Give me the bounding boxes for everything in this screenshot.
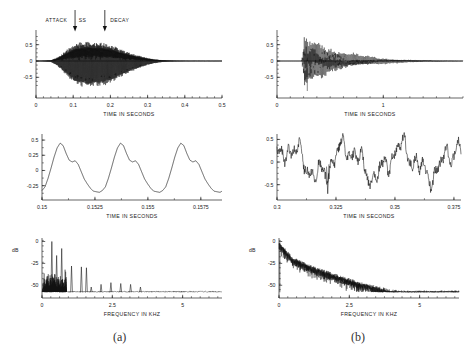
svg-text:0: 0 xyxy=(276,102,279,108)
plot-a-mid: 0.150.15250.1550.15750.50.250-0.25TIME I… xyxy=(0,124,237,230)
figure-caption-b: (b) xyxy=(351,330,365,345)
svg-text:0: 0 xyxy=(35,102,38,108)
svg-text:0: 0 xyxy=(36,167,39,173)
svg-text:2.5: 2.5 xyxy=(109,302,116,308)
svg-text:-50: -50 xyxy=(268,282,276,288)
svg-text:0.375: 0.375 xyxy=(447,204,460,210)
svg-text:0: 0 xyxy=(271,58,274,64)
svg-text:-25: -25 xyxy=(268,260,276,266)
svg-text:0.5: 0.5 xyxy=(25,42,32,48)
panel-a-top-waveform: 00.10.20.30.40.50.50-0.5TIME IN SECONDSA… xyxy=(0,4,237,122)
svg-text:TIME IN SECONDS: TIME IN SECONDS xyxy=(106,213,158,219)
svg-text:5: 5 xyxy=(418,302,421,308)
svg-text:0.1525: 0.1525 xyxy=(87,204,103,210)
svg-text:-50: -50 xyxy=(31,282,39,288)
svg-text:0.2: 0.2 xyxy=(107,102,114,108)
svg-text:5: 5 xyxy=(181,302,184,308)
svg-text:0.5: 0.5 xyxy=(31,137,38,143)
svg-text:DECAY: DECAY xyxy=(110,17,129,23)
svg-text:0.1575: 0.1575 xyxy=(193,204,209,210)
svg-text:-0.5: -0.5 xyxy=(265,74,274,80)
panel-a-bottom-spectrum: 02.550-25-50FREQUENCY IN KHZdB xyxy=(0,230,237,330)
svg-text:0.25: 0.25 xyxy=(28,152,38,158)
svg-text:dB: dB xyxy=(12,247,19,253)
svg-text:0: 0 xyxy=(30,58,33,64)
svg-text:TIME IN SECONDS: TIME IN SECONDS xyxy=(103,111,155,117)
svg-text:FREQUENCY IN KHZ: FREQUENCY IN KHZ xyxy=(104,311,161,317)
svg-text:ATTACK: ATTACK xyxy=(46,17,68,23)
svg-text:0.15: 0.15 xyxy=(37,204,47,210)
svg-text:0: 0 xyxy=(273,238,276,244)
svg-text:2.5: 2.5 xyxy=(346,302,353,308)
svg-text:SS: SS xyxy=(79,17,87,23)
svg-text:dB: dB xyxy=(249,247,256,253)
svg-text:0.5: 0.5 xyxy=(218,102,225,108)
svg-text:0.5: 0.5 xyxy=(266,136,273,142)
svg-text:0.1: 0.1 xyxy=(70,102,77,108)
plot-b-mid: 0.30.3250.350.3750.50-0.5TIME IN SECONDS xyxy=(237,124,474,230)
panel-b-top-waveform: 010.50-0.5TIME IN SECONDS xyxy=(237,4,474,122)
svg-text:0.3: 0.3 xyxy=(144,102,151,108)
plot-b-top: 010.50-0.5TIME IN SECONDS xyxy=(237,4,474,122)
panel-b-bottom-spectrum: 02.550-25-50FREQUENCY IN KHZdB xyxy=(237,230,474,330)
svg-text:-25: -25 xyxy=(31,260,39,266)
svg-text:0: 0 xyxy=(278,302,281,308)
svg-text:0.155: 0.155 xyxy=(141,204,154,210)
svg-text:-0.5: -0.5 xyxy=(24,74,33,80)
panel-b-mid-waveform: 0.30.3250.350.3750.50-0.5TIME IN SECONDS xyxy=(237,124,474,230)
svg-text:0.325: 0.325 xyxy=(329,204,342,210)
svg-text:0.4: 0.4 xyxy=(181,102,188,108)
plot-b-bot: 02.550-25-50FREQUENCY IN KHZdB xyxy=(237,230,474,330)
svg-text:0: 0 xyxy=(36,238,39,244)
plot-a-top: 00.10.20.30.40.50.50-0.5TIME IN SECONDSA… xyxy=(0,4,237,122)
svg-text:0: 0 xyxy=(41,302,44,308)
panel-a-mid-waveform: 0.150.15250.1550.15750.50.250-0.25TIME I… xyxy=(0,124,237,230)
svg-text:TIME IN SECONDS: TIME IN SECONDS xyxy=(343,213,395,219)
svg-text:1: 1 xyxy=(382,102,385,108)
svg-text:0.35: 0.35 xyxy=(390,204,400,210)
figure-caption-a: (a) xyxy=(113,330,126,345)
plot-a-bot: 02.550-25-50FREQUENCY IN KHZdB xyxy=(0,230,237,330)
svg-text:0.5: 0.5 xyxy=(266,42,273,48)
svg-text:0: 0 xyxy=(271,159,274,165)
svg-text:-0.25: -0.25 xyxy=(27,183,39,189)
svg-text:FREQUENCY IN KHZ: FREQUENCY IN KHZ xyxy=(341,311,398,317)
svg-text:0.3: 0.3 xyxy=(273,204,280,210)
svg-text:-0.5: -0.5 xyxy=(265,182,274,188)
svg-text:TIME IN SECONDS: TIME IN SECONDS xyxy=(344,111,396,117)
